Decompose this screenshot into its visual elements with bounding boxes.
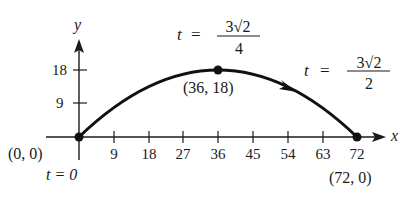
peak-label: (36, 18) — [183, 79, 234, 97]
point-peak — [214, 66, 223, 75]
svg-text:t: t — [177, 25, 183, 44]
end-t-denominator: 2 — [365, 75, 373, 92]
svg-text:t: t — [304, 61, 310, 80]
end-t-numerator: 3√2 — [357, 54, 382, 71]
x-tick-27: 27 — [176, 146, 192, 162]
x-tick-labels: 9 18 27 36 45 54 63 72 — [110, 146, 364, 162]
point-origin — [75, 133, 84, 142]
t-start-label: t = 0 — [46, 166, 77, 183]
peak-t-numerator: 3√2 — [226, 18, 251, 35]
end-t-annotation: t = 3√2 2 — [304, 54, 390, 92]
peak-t-annotation: t = 3√2 4 — [177, 18, 260, 57]
point-end — [353, 133, 362, 142]
direction-arrow-icon — [279, 80, 297, 92]
x-tick-72: 72 — [350, 146, 365, 162]
y-tick-18: 18 — [52, 62, 67, 78]
x-tick-9: 9 — [110, 146, 118, 162]
x-tick-45: 45 — [246, 146, 261, 162]
x-axis-label: x — [390, 127, 398, 144]
x-tick-63: 63 — [316, 146, 331, 162]
y-axis-label: y — [72, 16, 82, 34]
svg-text:=: = — [320, 61, 330, 80]
svg-text:=: = — [191, 25, 201, 44]
end-label: (72, 0) — [329, 169, 372, 187]
y-tick-9: 9 — [56, 95, 64, 111]
x-tick-36: 36 — [211, 146, 227, 162]
parametric-curve-chart: x y 9 18 27 36 45 54 63 72 9 18 (0, 0) (… — [0, 0, 417, 200]
y-ticks — [73, 70, 87, 103]
x-tick-18: 18 — [142, 146, 157, 162]
origin-label: (0, 0) — [8, 145, 43, 163]
peak-t-denominator: 4 — [235, 40, 243, 57]
x-tick-54: 54 — [281, 146, 297, 162]
